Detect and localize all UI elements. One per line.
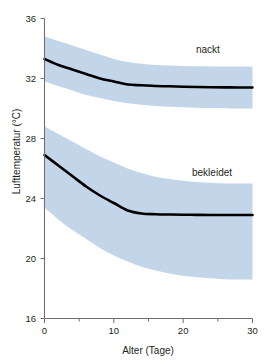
x-axis-title: Alter (Tage)	[44, 345, 252, 356]
x-tick-label-0: 0	[32, 326, 58, 336]
chart-plot-area	[0, 0, 271, 364]
x-tick-label-10: 10	[101, 326, 127, 336]
y-axis-title: Lufttemperatur (°C)	[11, 82, 22, 222]
band-bekleidet	[45, 127, 253, 280]
series-label-bekleidet: bekleidet	[192, 168, 232, 178]
chart-container: 162024283236 0102030 Lufttemperatur (°C)…	[0, 0, 271, 364]
band-nackt	[45, 37, 253, 109]
x-tick-label-30: 30	[240, 326, 266, 336]
y-tick-label-36: 36	[8, 14, 36, 24]
confidence-bands-group	[45, 37, 253, 280]
y-tick-label-20: 20	[8, 254, 36, 264]
y-tick-label-16: 16	[8, 314, 36, 324]
x-tick-label-20: 20	[170, 326, 196, 336]
series-label-nackt: nackt	[196, 45, 220, 55]
